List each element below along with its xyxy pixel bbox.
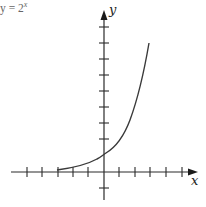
x-axis-label: x xyxy=(191,173,198,188)
y-axis-label: y xyxy=(109,2,116,17)
y-axis-arrow-icon xyxy=(101,10,108,20)
graph-canvas xyxy=(0,0,206,207)
